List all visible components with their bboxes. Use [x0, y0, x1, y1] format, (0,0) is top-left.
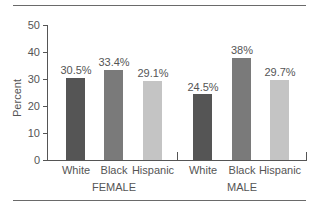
bar-male-black — [232, 58, 251, 160]
value-label: 24.5% — [178, 81, 228, 93]
bottom-rule — [13, 200, 306, 201]
x-axis — [47, 160, 307, 161]
group-separator-tick — [177, 152, 178, 160]
bar-female-black — [104, 70, 123, 160]
group-label-female: FEMALE — [74, 181, 154, 193]
category-label: Hispanic — [255, 164, 305, 176]
bar-female-white — [66, 78, 85, 160]
bar-male-white — [193, 94, 212, 160]
axis-end-tick — [306, 152, 307, 160]
y-tick-label: 50 — [6, 19, 40, 31]
y-tick — [43, 52, 47, 53]
bar-male-hispanic — [270, 80, 289, 160]
y-tick — [43, 133, 47, 134]
y-tick-label: 40 — [6, 46, 40, 58]
top-rule — [13, 5, 306, 6]
y-tick — [43, 160, 47, 161]
bar-female-hispanic — [143, 81, 162, 160]
y-tick — [43, 25, 47, 26]
value-label: 38% — [217, 44, 267, 56]
category-label: Hispanic — [128, 164, 178, 176]
y-tick — [43, 106, 47, 107]
y-tick-label: 20 — [6, 100, 40, 112]
value-label: 29.1% — [128, 67, 178, 79]
group-label-male: MALE — [202, 181, 282, 193]
y-tick-label: 10 — [6, 127, 40, 139]
y-tick — [43, 79, 47, 80]
y-tick-label: 0 — [6, 154, 40, 166]
y-tick-label: 30 — [6, 73, 40, 85]
y-axis — [47, 25, 48, 161]
value-label: 29.7% — [255, 66, 305, 78]
